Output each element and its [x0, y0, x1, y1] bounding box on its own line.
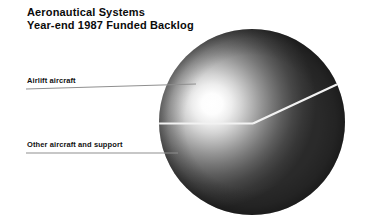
callout-other-text: Other aircraft and support	[27, 140, 123, 149]
chart-title-line-1: Aeronautical Systems	[27, 6, 257, 19]
callout-airlift-text: Airlift aircraft	[27, 76, 76, 85]
chart-figure: Aeronautical Systems Year-end 1987 Funde…	[0, 0, 368, 223]
callout-label-airlift: Airlift aircraft	[27, 76, 76, 85]
callout-label-other: Other aircraft and support	[27, 140, 123, 149]
pie-sphere-graphic	[0, 0, 368, 223]
sphere-body	[159, 29, 345, 215]
chart-title-line-2: Year-end 1987 Funded Backlog	[27, 19, 257, 32]
chart-title: Aeronautical Systems Year-end 1987 Funde…	[27, 6, 257, 32]
